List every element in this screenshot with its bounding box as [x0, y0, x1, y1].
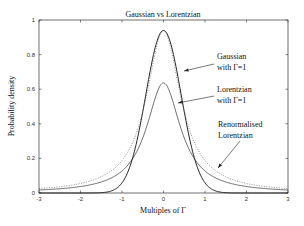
chart: Gaussian vs Lorentzian -3-2-1012300.20.4… [0, 0, 304, 226]
arrow-lorentzian [178, 96, 214, 103]
chart-title: Gaussian vs Lorentzian [125, 10, 200, 19]
series-renormalised-lorentzian [39, 30, 288, 188]
annotation-gaussian-line2: with Γ=1 [217, 63, 246, 72]
x-tick-label: 3 [286, 196, 290, 202]
x-axis-label: Multiples of Γ [140, 206, 186, 215]
annotation-gaussian-line1: Gaussian [217, 52, 246, 61]
annotation-renormalised-line2: Lorentzian [218, 131, 253, 140]
x-tick-label: 1 [203, 196, 207, 202]
plot-axes: -3-2-1012300.20.40.60.81 [27, 17, 291, 202]
y-axis-label: Probability density [7, 76, 16, 137]
x-tick-label: -2 [78, 196, 84, 202]
plot-frame [39, 20, 288, 193]
arrow-gaussian [184, 64, 214, 71]
annotation-lorentzian-line1: Lorentzian [217, 85, 252, 94]
plot-curves [39, 30, 288, 193]
y-tick-label: 0.2 [27, 155, 36, 161]
x-tick-label: -1 [119, 196, 125, 202]
annotation-lorentzian: Lorentzian with Γ=1 [178, 85, 252, 105]
arrow-renormalised [218, 141, 240, 168]
y-tick-label: 0.4 [27, 121, 36, 127]
y-tick-label: 0 [32, 190, 36, 196]
arrow-head-gaussian [184, 69, 189, 72]
annotation-gaussian: Gaussian with Γ=1 [184, 52, 246, 72]
x-tick-label: -3 [36, 196, 42, 202]
y-tick-label: 1 [32, 17, 36, 23]
x-tick-label: 0 [162, 196, 166, 202]
y-tick-label: 0.8 [27, 52, 36, 58]
annotation-renormalised: Renormalised Lorentzian [218, 120, 262, 168]
series-gaussian-with [39, 30, 288, 193]
y-tick-label: 0.6 [27, 86, 36, 92]
annotation-lorentzian-line2: with Γ=1 [217, 96, 246, 105]
annotation-renormalised-line1: Renormalised [218, 120, 262, 129]
x-tick-label: 2 [245, 196, 249, 202]
